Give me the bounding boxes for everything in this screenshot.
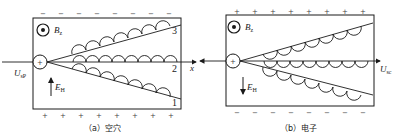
svg-text:−: − [252,109,258,117]
panel-b: ++ ++ ++ ++ Bz + Usc EH [200,8,392,133]
svg-text:−: − [306,109,312,117]
svg-text:−: − [270,109,276,117]
voltage-label-b: Usc [380,64,392,75]
svg-text:−: − [94,10,100,18]
hall-effect-diagram: −− −− −− −− Bz x + UsP EH [0,0,399,138]
track-label-1: 1 [172,97,177,108]
svg-text:+: + [168,112,174,120]
svg-text:+: + [114,112,120,120]
cycloid-track-3 [72,21,170,54]
track-label-3: 3 [172,25,177,36]
svg-text:+: + [78,112,84,120]
svg-text:−: − [360,109,366,117]
svg-text:−: − [166,10,172,18]
svg-text:−: − [148,10,154,18]
bottom-charge-signs-a: ++ ++ ++ ++ [42,112,174,120]
svg-text:+: + [132,112,138,120]
b-field-label-a: Bz [54,25,63,36]
top-charge-signs-a: −− −− −− −− [40,10,172,18]
cycloid-track-2 [73,56,177,63]
svg-text:−: − [112,10,118,18]
cycloid-track-lower-b [263,67,361,100]
svg-text:−: − [40,10,46,18]
b-field-label-b: Bz [245,22,254,33]
caption-a: （a）空穴 [84,123,121,133]
x-axis-label: x [189,63,194,73]
svg-text:−: − [76,10,82,18]
hall-field-label-b: EH [246,82,258,93]
svg-text:−: − [288,109,294,117]
svg-text:+: + [150,112,156,120]
caption-b: （b）电子 [280,123,317,133]
svg-text:+: + [37,59,43,67]
svg-text:+: + [230,58,236,66]
panel-a: −− −− −− −− Bz x + UsP EH [2,10,196,133]
svg-text:−: − [58,10,64,18]
svg-text:−: − [342,109,348,117]
svg-text:−: − [130,10,136,18]
bottom-charge-signs-b: −− −− −− −− [234,109,366,117]
hall-field-label-a: EH [54,82,66,93]
voltage-label-a: UsP [14,68,27,79]
track-label-2: 2 [172,63,177,74]
svg-text:−: − [324,109,330,117]
svg-text:−: − [234,109,240,117]
b-field-out-of-page-icon-b [228,21,240,33]
b-field-out-of-page-icon [37,24,49,36]
svg-text:+: + [96,112,102,120]
svg-text:+: + [60,112,66,120]
track-line-upper-b [240,23,373,61]
svg-text:+: + [42,112,48,120]
cycloid-track-middle-b [264,61,368,68]
